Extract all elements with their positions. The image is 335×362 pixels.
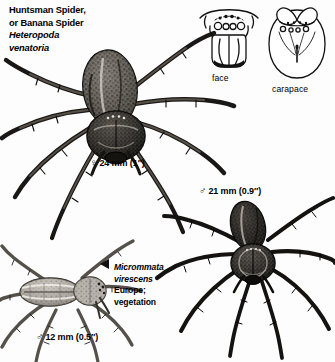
micrommata-genus: Micrommata (114, 262, 198, 274)
male-symbol-icon: ♂ (199, 185, 206, 196)
title-line-genus: Heteropoda (9, 29, 139, 42)
size-label-female-heteropoda: ♀24 mm (1″) (90, 157, 145, 168)
micrommata-pointer-icon (100, 259, 109, 269)
field-guide-plate: Huntsman Spider, or Banana Spider Hetero… (0, 0, 335, 362)
title-line-common-2: or Banana Spider (9, 17, 139, 30)
size-label-female-heteropoda-text: 24 mm (1″) (99, 158, 144, 168)
micrommata-species: virescens (114, 274, 198, 286)
micrommata-region: Europe; (114, 285, 198, 297)
face-diagram (196, 2, 262, 76)
carapace-diagram (266, 2, 328, 86)
caption-face: face (212, 73, 229, 83)
micrommata-annotation: Micrommata virescens Europe; vegetation (114, 262, 198, 308)
title-line-common-1: Huntsman Spider, (9, 4, 139, 17)
caption-carapace: carapace (272, 84, 308, 94)
size-label-male-heteropoda: ♂21 mm (0.9″) (199, 185, 261, 196)
male-symbol-icon-micrommata: ♂ (36, 331, 43, 342)
size-label-male-micrommata-text: 12 mm (0.5″) (45, 332, 98, 342)
size-label-male-heteropoda-text: 21 mm (0.9″) (208, 186, 261, 196)
title-line-species: venatoria (9, 42, 139, 55)
female-symbol-icon: ♀ (90, 157, 97, 168)
micrommata-habitat: vegetation (114, 297, 198, 309)
size-label-male-micrommata: ♂12 mm (0.5″) (36, 331, 98, 342)
species-title: Huntsman Spider, or Banana Spider Hetero… (9, 4, 139, 54)
